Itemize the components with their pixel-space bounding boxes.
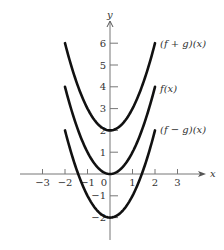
- y-tick-label: 6: [100, 38, 106, 49]
- x-tick-label: −3: [35, 177, 50, 188]
- x-tick-label: 1: [129, 177, 135, 188]
- curve-label-f: f(x): [159, 83, 177, 94]
- curve-label-f-plus-g: (f + g)(x): [160, 38, 206, 49]
- y-tick-label: 1: [100, 147, 106, 158]
- y-tick-label: 4: [100, 81, 106, 92]
- x-tick-label: 0: [101, 177, 107, 188]
- y-axis-label: y: [106, 9, 113, 20]
- x-tick-label: 2: [152, 177, 158, 188]
- x-axis-label: x: [210, 168, 216, 179]
- y-tick-label: 5: [100, 60, 106, 71]
- x-tick-label: 3: [174, 177, 180, 188]
- function-graph: x y −3−2−10123 −2−1123456 (f + g)(x) f(x…: [0, 0, 224, 250]
- curve-label-f-minus-g: (f − g)(x): [160, 124, 206, 135]
- x-ticks: −3−2−10123: [35, 169, 181, 188]
- y-tick-label: −1: [91, 190, 106, 201]
- y-tick-label: 3: [100, 103, 106, 114]
- x-tick-label: −2: [58, 177, 73, 188]
